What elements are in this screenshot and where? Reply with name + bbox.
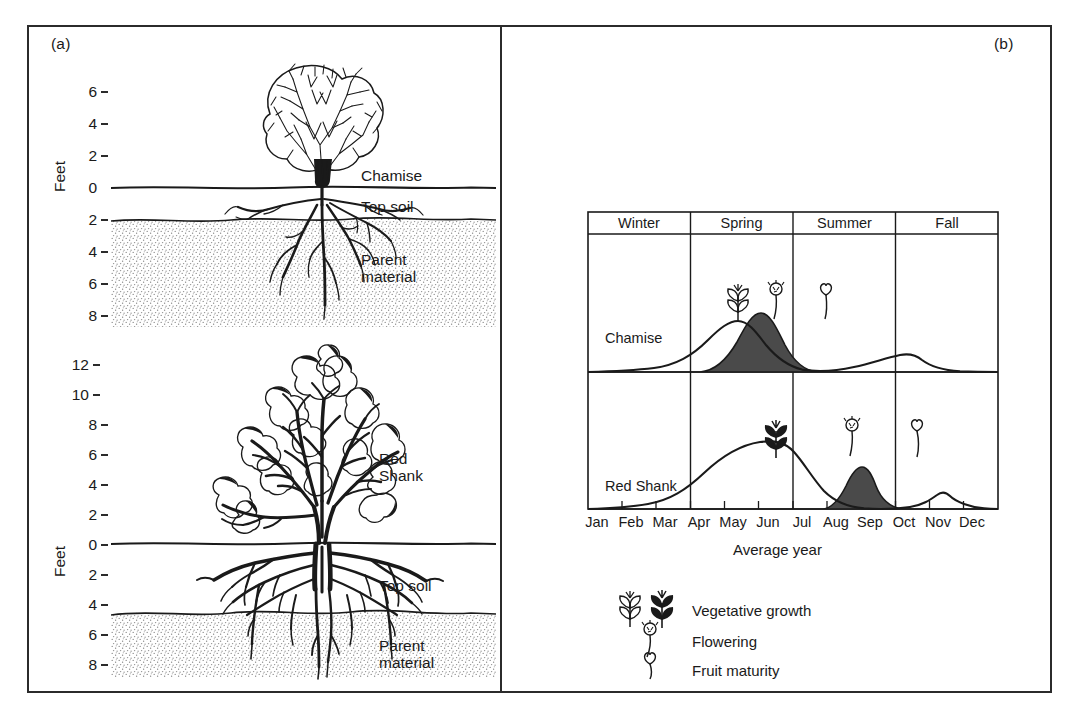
red-shank-tick-mark	[101, 454, 108, 456]
chamise-tick-mark	[101, 91, 108, 93]
chamise-tick-mark	[101, 283, 108, 285]
chamise-tick-mark	[101, 219, 108, 221]
red-shank-tick-label: 4	[71, 596, 97, 614]
chamise-event-icons	[728, 280, 832, 321]
red-shank-tick-mark	[93, 364, 100, 366]
fruit-maturity-icon	[645, 653, 656, 679]
chamise-parent-material-label: Parent material	[361, 251, 416, 285]
phenology-row-label-chamise: Chamise	[605, 330, 662, 346]
season-label-winter: Winter	[588, 215, 690, 231]
legend-label-flowering: Flowering	[692, 633, 757, 650]
chamise-tick-label: 6	[71, 83, 97, 101]
chamise-tick-mark	[101, 251, 108, 253]
red-shank-tick-label: 0	[71, 536, 97, 554]
fruit-maturity-icon	[912, 420, 923, 457]
red-shank-axis-label: Feet	[51, 546, 69, 577]
month-tick-marks	[622, 501, 964, 509]
flowering-icon	[642, 620, 658, 657]
chamise-tick-label: 2	[71, 147, 97, 165]
flowering-icon	[844, 416, 860, 456]
chamise-tick-mark	[101, 123, 108, 125]
red-shank-tick-label: 6	[71, 626, 97, 644]
red-shank-tick-mark	[101, 544, 108, 546]
chamise-tick-label: 0	[71, 179, 97, 197]
month-label-dec: Dec	[946, 514, 998, 530]
red-shank-ground-line	[111, 543, 496, 545]
red-shank-species-label: Red Shank	[379, 450, 423, 484]
red-shank-drawing	[111, 337, 496, 689]
chamise-species-label: Chamise	[361, 167, 422, 184]
season-label-spring: Spring	[690, 215, 793, 231]
chamise-drawing	[111, 27, 496, 337]
figure-frame: (a) Feet 6 4 2 0 2 4 6 8	[27, 25, 1052, 693]
red-shank-tick-mark	[101, 664, 108, 666]
red-shank-tick-mark	[101, 574, 108, 576]
chamise-tick-label: 2	[71, 211, 97, 229]
chamise-topsoil-label: Top soil	[361, 198, 414, 215]
red-shank-tick-label: 4	[71, 476, 97, 494]
panel-a-root-profiles: (a) Feet 6 4 2 0 2 4 6 8	[29, 27, 500, 691]
chamise-tick-mark	[101, 315, 108, 317]
fruit-maturity-icon	[821, 284, 832, 319]
red-shank-parent-material-label: Parent material	[379, 637, 434, 671]
red-shank-profile: Feet 12 10 8 6 4 2 0 2 4 6 8	[29, 337, 500, 695]
vegetative-growth-icon	[651, 590, 673, 628]
red-shank-parent-material-fill	[111, 602, 496, 687]
panel-b-label: (b)	[994, 35, 1014, 53]
red-shank-tick-mark	[101, 424, 108, 426]
chamise-ground-line	[111, 187, 496, 189]
chamise-tick-label: 8	[71, 307, 97, 325]
chamise-tick-label: 4	[71, 115, 97, 133]
red-shank-tick-label: 12	[63, 356, 89, 374]
red-shank-tick-mark	[101, 634, 108, 636]
red-shank-tick-mark	[101, 484, 108, 486]
legend-label-vegetative-growth: Vegetative growth	[692, 602, 811, 619]
red-shank-event-icons	[765, 416, 923, 458]
red-shank-tick-label: 2	[71, 506, 97, 524]
red-shank-tick-label: 10	[63, 386, 89, 404]
vegetative-growth-icon	[728, 284, 748, 321]
chamise-profile: Feet 6 4 2 0 2 4 6 8	[29, 27, 500, 337]
chamise-tick-mark	[101, 155, 108, 157]
legend-label-fruit-maturity: Fruit maturity	[692, 662, 780, 679]
x-axis-title: Average year	[733, 541, 822, 558]
red-shank-tick-mark	[93, 394, 100, 396]
red-shank-tick-mark	[101, 514, 108, 516]
red-shank-tick-mark	[101, 604, 108, 606]
flowering-icon	[768, 280, 784, 319]
red-shank-topsoil-label: Top soil	[379, 577, 432, 594]
chamise-axis-label: Feet	[51, 161, 69, 192]
phenology-row-label-red-shank: Red Shank	[605, 478, 677, 494]
red-shank-canopy	[213, 345, 405, 543]
season-label-summer: Summer	[793, 215, 896, 231]
vegetative-growth-icon	[620, 591, 640, 627]
chamise-tick-label: 6	[71, 275, 97, 293]
red-shank-tick-label: 8	[71, 656, 97, 674]
red-shank-tick-label: 2	[71, 566, 97, 584]
chamise-tick-label: 4	[71, 243, 97, 261]
red-shank-tick-label: 6	[71, 446, 97, 464]
season-label-fall: Fall	[896, 215, 998, 231]
panel-b-phenology: (b)	[500, 27, 1054, 691]
red-shank-tick-label: 8	[71, 416, 97, 434]
chart-legend: Vegetative growth Flowering Fruit maturi…	[606, 585, 936, 680]
vegetative-growth-icon	[765, 420, 787, 458]
